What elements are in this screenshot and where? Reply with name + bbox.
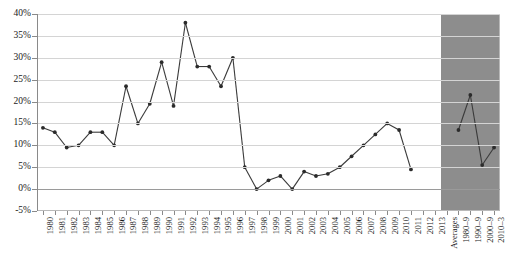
x-tick-label-average-period: 2000–9: [486, 217, 495, 243]
data-point-annual: [195, 65, 199, 69]
data-point-annual: [267, 178, 271, 182]
y-tick-mark: [32, 58, 37, 59]
data-point-annual: [326, 172, 330, 176]
x-tick-mark: [185, 211, 186, 215]
x-tick-mark: [126, 211, 127, 215]
y-axis-line: [37, 14, 38, 211]
x-tick-mark: [174, 211, 175, 215]
x-tick-label-year: 1981: [58, 217, 67, 234]
x-tick-mark: [435, 211, 436, 215]
x-tick-label-year: 1984: [94, 217, 103, 234]
x-tick-mark: [470, 211, 471, 215]
x-tick-mark: [102, 211, 103, 215]
x-tick-mark: [114, 211, 115, 215]
x-tick-mark: [494, 211, 495, 215]
data-point-annual: [160, 60, 164, 64]
y-tick-label: 15%: [0, 118, 31, 128]
x-tick-label-year: 1998: [260, 217, 269, 234]
x-tick-label-year: 2006: [355, 217, 364, 234]
y-tick-label: 30%: [0, 53, 31, 63]
x-tick-label-year: 1992: [189, 217, 198, 234]
x-tick-label-year: 1999: [272, 217, 281, 234]
x-tick-label-year: 1982: [70, 217, 79, 234]
x-tick-mark: [316, 211, 317, 215]
y-tick-mark: [32, 36, 37, 37]
x-tick-mark: [387, 211, 388, 215]
y-tick-label: 40%: [0, 9, 31, 19]
series-segment-average: [470, 95, 482, 165]
x-tick-mark: [221, 211, 222, 215]
series-segment-annual: [245, 167, 257, 189]
x-tick-mark: [280, 211, 281, 215]
series-segment-annual: [138, 104, 150, 124]
x-tick-label-year: 1997: [248, 217, 257, 234]
data-point-annual: [397, 128, 401, 132]
data-point-annual: [89, 130, 93, 134]
x-tick-label-average-period: 2010–3: [497, 217, 506, 243]
x-tick-mark: [328, 211, 329, 215]
data-series-line: [37, 14, 500, 211]
x-tick-mark: [423, 211, 424, 215]
x-tick-label-year: 1993: [201, 217, 210, 234]
series-segment-annual: [126, 86, 138, 123]
x-tick-label-year: 1986: [118, 217, 127, 234]
x-tick-mark: [150, 211, 151, 215]
x-tick-mark: [269, 211, 270, 215]
x-tick-label-average-period: 1990–9: [474, 217, 483, 243]
data-point-annual: [350, 154, 354, 158]
plot-area: [37, 14, 500, 211]
series-segment-annual: [150, 62, 162, 104]
x-tick-mark: [55, 211, 56, 215]
x-tick-mark: [162, 211, 163, 215]
data-point-annual: [219, 84, 223, 88]
x-tick-mark: [90, 211, 91, 215]
line-chart: 40%35%30%25%20%15%10%5%0%-5% 19801981198…: [0, 0, 509, 261]
x-tick-mark: [458, 211, 459, 215]
series-segment-annual: [399, 130, 411, 169]
series-segment-annual: [363, 134, 375, 145]
series-segment-annual: [233, 58, 245, 167]
y-tick-mark: [32, 123, 37, 124]
series-segment-annual: [209, 67, 221, 87]
x-tick-label-year: 2004: [331, 217, 340, 234]
data-point-annual: [100, 130, 104, 134]
gridline: [37, 102, 500, 103]
gridline: [37, 80, 500, 81]
x-tick-label-year: 1991: [177, 217, 186, 234]
x-tick-mark: [340, 211, 341, 215]
x-tick-label-year: 1987: [129, 217, 138, 234]
y-tick-mark: [32, 211, 37, 212]
x-tick-mark: [257, 211, 258, 215]
data-point-annual: [278, 174, 282, 178]
x-tick-label-year: 1989: [153, 217, 162, 234]
x-tick-mark: [138, 211, 139, 215]
gridline: [37, 58, 500, 59]
series-segment-annual: [162, 62, 174, 106]
x-axis-labels: 1980198119821983198419851986198719881989…: [0, 211, 509, 261]
y-tick-mark: [32, 80, 37, 81]
y-tick-label: 0%: [0, 184, 31, 194]
x-tick-mark: [363, 211, 364, 215]
x-tick-label-year: 2009: [391, 217, 400, 234]
data-point-average: [468, 93, 472, 97]
data-point-annual: [314, 174, 318, 178]
series-segment-annual: [114, 86, 126, 145]
x-tick-label-year: 2003: [319, 217, 328, 234]
x-tick-label-year: 2007: [367, 217, 376, 234]
x-tick-mark: [375, 211, 376, 215]
x-tick-mark: [79, 211, 80, 215]
data-point-annual: [172, 104, 176, 108]
x-tick-mark: [67, 211, 68, 215]
x-tick-mark: [197, 211, 198, 215]
x-tick-mark: [43, 211, 44, 215]
series-segment-annual: [79, 132, 91, 145]
x-tick-mark: [482, 211, 483, 215]
x-tick-label-year: 1995: [224, 217, 233, 234]
x-axis-averages-header: Averages: [450, 217, 459, 249]
y-tick-mark: [32, 167, 37, 168]
gridline: [37, 14, 500, 15]
x-tick-mark: [447, 211, 448, 215]
x-tick-label-year: 1994: [213, 217, 222, 234]
x-tick-label-year: 2011: [414, 217, 423, 234]
y-tick-mark: [32, 145, 37, 146]
